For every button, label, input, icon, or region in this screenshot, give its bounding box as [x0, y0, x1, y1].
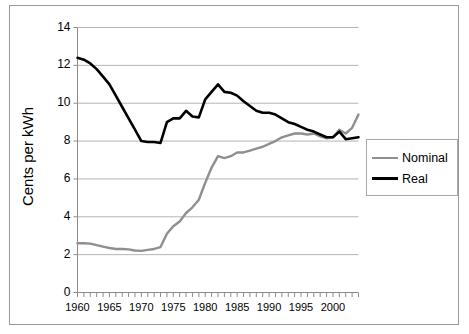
y-tick-label: 0: [45, 285, 71, 299]
y-tick-label: 10: [45, 95, 71, 109]
y-tick-label: 14: [45, 20, 71, 34]
x-tick-label: 2000: [311, 301, 355, 313]
legend-swatch-nominal: [372, 157, 398, 159]
y-tick-label: 6: [45, 171, 71, 185]
legend-swatch-real: [372, 177, 398, 180]
series-line-real: [78, 58, 359, 143]
chart-figure: Cents per kWh 02468101214 19601965197019…: [0, 0, 469, 334]
chart-legend: NominalReal: [366, 139, 458, 196]
y-tick-label: 4: [45, 209, 71, 223]
y-tick-label: 2: [45, 247, 71, 261]
legend-label: Nominal: [402, 151, 448, 165]
gridlines-group: [78, 28, 359, 255]
y-axis-title: Cents per kWh: [19, 67, 36, 247]
legend-item-real[interactable]: Real: [367, 168, 457, 189]
data-series-group: [78, 58, 359, 251]
x-tick-marks-group: [78, 293, 359, 298]
legend-label: Real: [402, 172, 428, 186]
legend-item-nominal[interactable]: Nominal: [367, 147, 457, 168]
y-tick-label: 12: [45, 57, 71, 71]
y-tick-label: 8: [45, 133, 71, 147]
series-line-nominal: [78, 115, 359, 251]
